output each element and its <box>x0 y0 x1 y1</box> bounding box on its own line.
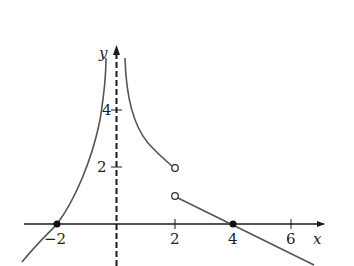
function-graph: y x −2 2 4 6 2 4 <box>0 0 354 266</box>
open-point-2-1 <box>172 193 179 200</box>
closed-point-neg2-0 <box>54 221 61 228</box>
closed-point-4-0 <box>230 221 237 228</box>
x-tick-label-4: 4 <box>228 230 238 248</box>
y-tick-label-2: 2 <box>97 158 107 176</box>
y-tick-label-4: 4 <box>102 101 112 119</box>
y-axis-arrow-icon <box>113 45 120 55</box>
x-tick-label-6: 6 <box>286 230 296 248</box>
open-point-2-2 <box>172 165 179 172</box>
x-tick-label-2: 2 <box>170 230 180 248</box>
x-tick-label-neg2: −2 <box>44 230 66 248</box>
middle-branch-curve <box>125 58 172 166</box>
x-axis-label: x <box>313 230 322 248</box>
y-axis-label: y <box>98 44 108 62</box>
